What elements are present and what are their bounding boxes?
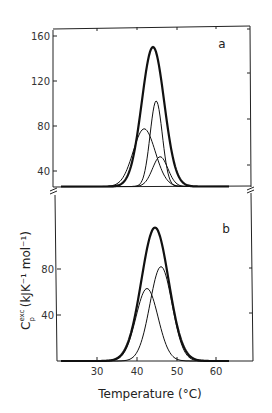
b-ytick-40: 40: [41, 310, 54, 321]
ylabel-sub: p: [28, 317, 36, 322]
svg-text:Cexcp (kJK⁻¹ mol⁻¹): Cexcp (kJK⁻¹ mol⁻¹): [18, 231, 36, 330]
xtick-30: 30: [91, 366, 104, 377]
curve-total: [61, 228, 229, 361]
ylabel-c: C: [19, 322, 33, 330]
y-axis-title: Cexcp (kJK⁻¹ mol⁻¹): [18, 231, 36, 330]
a-ytick-160: 160: [31, 31, 50, 42]
xtick-40: 40: [131, 366, 144, 377]
a-ytick-40: 40: [37, 166, 50, 177]
xtick-50: 50: [171, 366, 184, 377]
curve-component-2: [61, 267, 229, 361]
panel-a-label: a: [218, 37, 225, 51]
a-ytick-120: 120: [31, 76, 50, 87]
axis-break-marks: [50, 187, 254, 194]
curve-component-2: [61, 101, 229, 187]
panel-b-curves: [61, 228, 229, 361]
curve-total: [61, 47, 229, 187]
xtick-60: 60: [210, 366, 223, 377]
b-ytick-80: 80: [41, 264, 54, 275]
panel-b-label: b: [222, 222, 230, 236]
curve-component-1: [61, 289, 229, 361]
dsc-figure: 160 120 80 40 80 40 30 40 50 60 a b Temp…: [0, 0, 272, 413]
a-ytick-80: 80: [37, 121, 50, 132]
panel-a-curves: [61, 47, 229, 187]
panel-b-frame: [55, 193, 253, 361]
ylabel-units: (kJK⁻¹ mol⁻¹): [19, 231, 33, 311]
curve-component-1: [61, 129, 229, 187]
x-axis-title: Temperature (°C): [97, 387, 202, 401]
